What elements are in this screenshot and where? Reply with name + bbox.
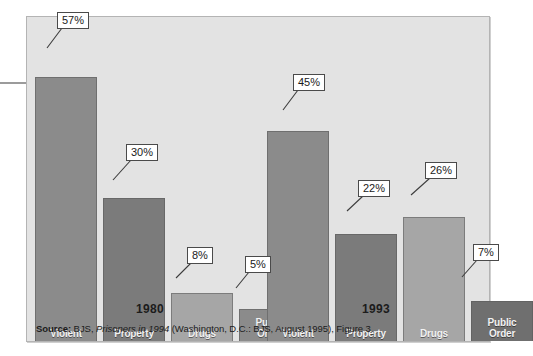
source-agency: BJS,	[71, 323, 96, 334]
source-rest: (Washington, D.C.: BJS, August 1995), Fi…	[169, 323, 373, 334]
bar-label-1993-public-order: Public Order	[488, 318, 517, 339]
value-callout-1980-violent: 57%	[57, 12, 89, 29]
source-publication: Prisoners in 1994	[96, 323, 169, 334]
bar-1980-property[interactable]: Property	[103, 198, 165, 341]
bar-1993-drugs[interactable]: Drugs	[403, 217, 465, 341]
chart-panel: Violent Property Drugs Public Order Viol…	[26, 16, 490, 342]
value-callout-1993-property: 22%	[358, 180, 390, 197]
plot-area: Violent Property Drugs Public Order Viol…	[27, 17, 489, 341]
value-callout-1993-drugs: 26%	[425, 162, 457, 179]
value-callout-1993-public-order: 7%	[473, 244, 499, 261]
group-label-1993: 1993	[336, 302, 416, 316]
bar-1993-public-order[interactable]: Public Order	[471, 301, 533, 341]
source-note: Source: BJS, Prisoners in 1994 (Washingt…	[36, 323, 373, 334]
value-callout-1993-violent: 45%	[293, 74, 325, 91]
value-callout-1980-property: 30%	[126, 144, 158, 161]
bar-label-1993-drugs: Drugs	[420, 329, 448, 340]
source-prefix: Source:	[36, 323, 71, 334]
group-label-1980: 1980	[110, 302, 190, 316]
value-callout-1980-drugs: 8%	[187, 247, 213, 264]
value-callout-1980-public-order: 5%	[245, 256, 271, 273]
bar-1980-violent[interactable]: Violent	[35, 77, 97, 341]
bar-1993-violent[interactable]: Violent	[267, 131, 329, 341]
